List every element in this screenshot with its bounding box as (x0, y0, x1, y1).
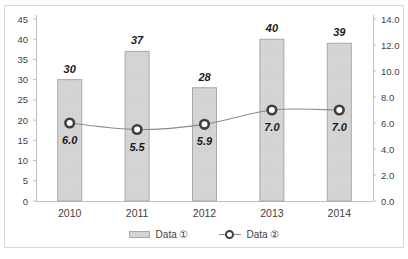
right-axis-tick-label: 0.0 (381, 196, 394, 207)
left-axis-tick-label: 45 (17, 14, 28, 25)
category-label-2014: 2014 (328, 207, 352, 219)
right-axis-tick-label: 14.0 (381, 14, 400, 25)
left-axis-tick-label: 20 (17, 115, 28, 126)
marker-2010 (65, 119, 74, 128)
legend-label-data1: Data ① (156, 229, 189, 240)
line-label-2011: 5.5 (129, 141, 145, 153)
line-label-2014: 7.0 (332, 121, 348, 133)
right-axis-tick-label: 12.0 (381, 40, 400, 51)
line-label-2010: 6.0 (62, 134, 78, 146)
bar-label-2012: 28 (197, 71, 211, 83)
right-axis-tick-label: 10.0 (381, 66, 400, 77)
right-axis-tick-label: 2.0 (381, 170, 394, 181)
left-axis-tick-label: 5 (23, 175, 28, 186)
left-axis-tick-label: 35 (17, 54, 28, 65)
line-marker-swatch-icon (219, 230, 241, 239)
bar-label-2013: 40 (265, 22, 279, 34)
category-label-2010: 2010 (58, 207, 82, 219)
right-axis-tick-label: 8.0 (381, 92, 394, 103)
category-label-2011: 2011 (126, 207, 149, 219)
right-axis-tick-label: 4.0 (381, 144, 394, 155)
legend-item-data1: Data ① (129, 229, 189, 240)
bar-series-swatch-icon (129, 231, 150, 238)
right-axis-tick-label: 6.0 (381, 118, 394, 129)
category-label-2012: 2012 (193, 207, 217, 219)
marker-2013 (268, 106, 277, 115)
left-axis-tick-label: 30 (17, 74, 28, 85)
line-label-2012: 5.9 (197, 135, 213, 147)
bar-series: 3037284039 (58, 22, 352, 201)
left-axis-tick-label: 40 (17, 34, 28, 45)
chart-legend: Data ① Data ② (0, 229, 408, 240)
legend-label-data2: Data ② (247, 229, 280, 240)
marker-2014 (335, 106, 344, 115)
line-label-2013: 7.0 (264, 121, 280, 133)
left-axis-tick-label: 0 (23, 196, 28, 207)
left-axis-tick-label: 10 (17, 155, 28, 166)
bar-label-2011: 37 (131, 34, 144, 46)
left-axis-tick-label: 15 (17, 135, 28, 146)
marker-2011 (133, 125, 142, 134)
bar-label-2010: 30 (64, 63, 77, 75)
combo-chart-canvas: 0510152025303540450.02.04.06.08.010.012.… (0, 0, 408, 259)
left-axis-tick-label: 25 (17, 94, 28, 105)
bar-label-2014: 39 (333, 26, 346, 38)
category-label-2013: 2013 (260, 207, 284, 219)
marker-2012 (200, 120, 209, 129)
legend-item-data2: Data ② (219, 229, 280, 240)
